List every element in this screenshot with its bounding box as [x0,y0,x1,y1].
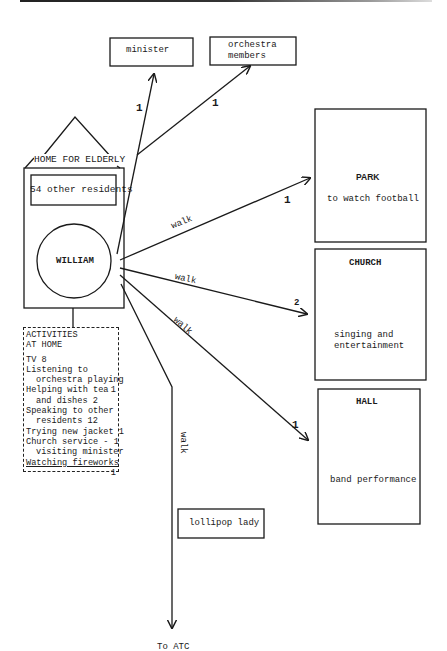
home-title: HOME FOR ELDERLY [34,154,125,165]
church-count: 2 [294,298,299,309]
park-name: PARK [356,172,379,183]
church-description-line1: singing and [334,330,393,341]
hall-name: HALL [356,397,378,408]
hall-description: band performance [330,475,416,486]
william-label: WILLIAM [56,256,94,267]
activity-item: Trying new jacket 1 [26,427,116,437]
orchestra-label-line2: members [228,51,266,62]
orchestra-label-line1: orchestra [228,40,277,51]
activity-count: 1 [111,468,116,478]
orchestra-count: 1 [212,98,219,109]
down-walk-label: walk [177,432,188,454]
church-description-line2: entertainment [334,341,404,352]
activity-item: Church service - 1 [26,437,116,447]
activity-item: orchestra playing [26,375,116,385]
activities-title-line1: ACTIVITIES [26,330,116,340]
minister-label: minister [126,45,169,56]
diagram-lines [0,0,447,651]
activity-item: Helping with tea1 [26,385,116,395]
activity-text: Helping with tea [26,385,109,395]
church-name: CHURCH [349,258,381,269]
hall-count: 1 [292,420,299,431]
activity-item: Speaking to other [26,406,116,416]
activity-item: visiting minister [26,447,116,457]
activity-count: 1 [111,385,116,395]
residents-label: 54 other residents [30,184,133,195]
lollipop-lady-label: lollipop lady [189,518,259,529]
activities-title-line2: AT HOME [26,340,116,350]
activity-item: TV 8 [26,355,116,365]
activity-text: Watching fireworks [26,458,119,468]
activity-item: Watching fireworks1 [26,458,116,468]
park-description: to watch football [327,194,419,205]
destination-label: To ATC [157,642,189,651]
park-count: 1 [284,195,291,206]
activity-item: and dishes 2 [26,396,116,406]
activities-box: ACTIVITIES AT HOME TV 8 Listening to orc… [23,327,119,472]
minister-count: 1 [136,103,143,114]
activity-item: residents 12 [26,416,116,426]
activity-item: Listening to [26,365,116,375]
